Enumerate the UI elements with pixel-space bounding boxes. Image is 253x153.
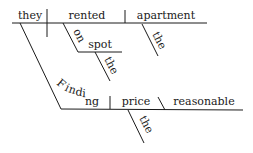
object-word: apartment [137, 9, 196, 22]
complement-word: reasonable [173, 95, 234, 108]
complement-divider [158, 97, 165, 110]
gerund-object-word: price [122, 95, 151, 108]
gerund-letters-ng: ng [85, 95, 99, 108]
gerund-baseline [61, 109, 243, 110]
object-modifier-word: the [149, 29, 169, 51]
gerund-object-modifier-word: the [136, 113, 156, 135]
sentence-diagram: they rented apartment the on spot the F … [0, 0, 253, 153]
prep-object-word: spot [88, 38, 112, 51]
verb-word: rented [69, 9, 106, 22]
subject-word: they [18, 9, 43, 22]
prep-object-modifier-word: the [101, 54, 121, 76]
gerund-stilt [20, 23, 61, 109]
